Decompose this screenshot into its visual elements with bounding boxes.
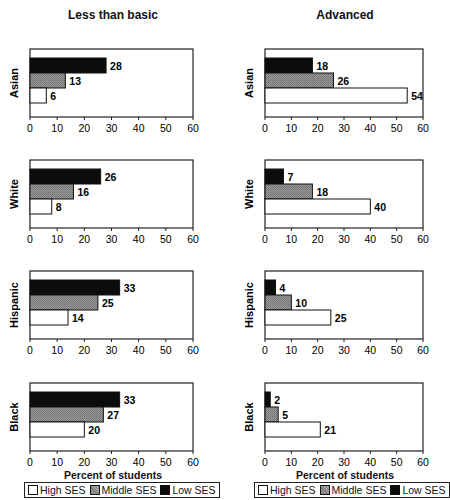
x-tick-label: 20 <box>312 233 324 245</box>
x-tick-label: 50 <box>160 233 172 245</box>
bar-low-ses <box>30 280 120 295</box>
bar-middle-ses <box>30 184 73 199</box>
x-tick-label: 30 <box>106 122 118 134</box>
bar-low-ses <box>30 58 106 73</box>
bar-value-label: 13 <box>69 75 81 87</box>
x-tick-label: 20 <box>78 456 90 468</box>
x-tick-label: 50 <box>160 456 172 468</box>
x-tick-label: 30 <box>106 344 118 356</box>
group-label: White <box>243 179 255 209</box>
bar-value-label: 26 <box>105 171 117 183</box>
x-tick-label: 0 <box>262 122 268 134</box>
x-tick-label: 40 <box>364 122 376 134</box>
legend-item-low: Low SES <box>160 484 215 496</box>
bar-low-ses <box>30 169 101 184</box>
swatch-mid-icon <box>320 485 330 495</box>
x-axis-label-right: Percent of students <box>255 469 435 481</box>
bar-high-ses <box>265 422 320 437</box>
x-tick-label: 60 <box>417 456 429 468</box>
x-tick-label: 30 <box>338 344 350 356</box>
x-tick-label: 10 <box>51 456 63 468</box>
group-label: White <box>8 179 20 209</box>
bar-low-ses <box>265 280 276 295</box>
x-tick-label: 60 <box>417 344 429 356</box>
legend-item-mid: Middle SES <box>320 484 387 496</box>
x-tick-label: 30 <box>338 122 350 134</box>
x-tick-label: 0 <box>27 233 33 245</box>
bar-high-ses <box>265 199 370 214</box>
x-tick-label: 60 <box>417 233 429 245</box>
bar-middle-ses <box>265 184 312 199</box>
x-tick-label: 10 <box>285 233 297 245</box>
bar-value-label: 14 <box>72 312 84 324</box>
x-tick-label: 20 <box>78 233 90 245</box>
x-tick-label: 50 <box>391 456 403 468</box>
x-tick-label: 20 <box>78 122 90 134</box>
group-label: Black <box>8 401 20 431</box>
bar-value-label: 33 <box>124 394 136 406</box>
bar-high-ses <box>30 199 52 214</box>
bar-value-label: 40 <box>374 201 386 213</box>
legend-item-high: High SES <box>258 484 316 496</box>
x-tick-label: 10 <box>51 122 63 134</box>
bar-middle-ses <box>265 73 333 88</box>
bar-value-label: 18 <box>316 186 328 198</box>
bar-value-label: 20 <box>88 424 100 436</box>
legend-item-low: Low SES <box>390 484 445 496</box>
bar-high-ses <box>30 422 84 437</box>
x-tick-label: 50 <box>391 122 403 134</box>
x-tick-label: 30 <box>106 233 118 245</box>
bar-low-ses <box>265 58 312 73</box>
bar-value-label: 25 <box>335 312 347 324</box>
x-tick-label: 10 <box>285 344 297 356</box>
bar-high-ses <box>265 310 331 325</box>
bar-high-ses <box>265 88 407 103</box>
bar-value-label: 26 <box>337 75 349 87</box>
x-tick-label: 40 <box>364 344 376 356</box>
x-tick-label: 40 <box>133 344 145 356</box>
x-tick-label: 0 <box>27 456 33 468</box>
legend-right: High SES Middle SES Low SES <box>254 482 450 498</box>
x-tick-label: 40 <box>133 456 145 468</box>
group-label: Hispanic <box>8 282 20 328</box>
swatch-low-icon <box>160 485 170 495</box>
swatch-low-icon <box>390 485 400 495</box>
x-tick-label: 10 <box>285 456 297 468</box>
x-tick-label: 40 <box>364 456 376 468</box>
bar-value-label: 18 <box>316 60 328 72</box>
bar-value-label: 28 <box>110 60 122 72</box>
group-label: Asian <box>8 68 20 98</box>
swatch-high-icon <box>28 485 38 495</box>
bar-value-label: 25 <box>102 297 114 309</box>
bar-middle-ses <box>265 295 291 310</box>
legend-item-high: High SES <box>28 484 86 496</box>
x-tick-label: 40 <box>364 233 376 245</box>
x-tick-label: 0 <box>262 456 268 468</box>
swatch-mid-icon <box>90 485 100 495</box>
bar-value-label: 6 <box>50 90 56 102</box>
bar-value-label: 33 <box>124 282 136 294</box>
bar-value-label: 8 <box>56 201 62 213</box>
x-tick-label: 40 <box>133 122 145 134</box>
x-tick-label: 20 <box>312 122 324 134</box>
bar-middle-ses <box>265 407 278 422</box>
swatch-high-icon <box>258 485 268 495</box>
group-label: Asian <box>243 68 255 98</box>
bar-high-ses <box>30 310 68 325</box>
x-tick-label: 50 <box>391 233 403 245</box>
x-tick-label: 60 <box>417 122 429 134</box>
x-tick-label: 30 <box>106 456 118 468</box>
x-tick-label: 20 <box>312 344 324 356</box>
x-tick-label: 0 <box>27 344 33 356</box>
bar-value-label: 7 <box>287 171 293 183</box>
x-tick-label: 60 <box>187 122 199 134</box>
x-tick-label: 50 <box>391 344 403 356</box>
x-tick-label: 10 <box>285 122 297 134</box>
x-tick-label: 0 <box>262 344 268 356</box>
x-tick-label: 60 <box>187 344 199 356</box>
bar-value-label: 54 <box>411 90 423 102</box>
x-tick-label: 50 <box>160 122 172 134</box>
x-tick-label: 20 <box>312 456 324 468</box>
